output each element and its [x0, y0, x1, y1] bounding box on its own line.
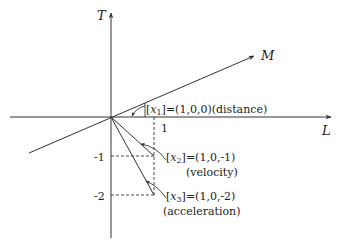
tick-y-minus-1: -1 — [94, 151, 105, 164]
vector-x2 — [111, 117, 154, 156]
tick-x-1: 1 — [161, 122, 168, 135]
pointer-x2 — [141, 144, 166, 160]
svg-text:[x3]=(1,0,-2): [x3]=(1,0,-2) — [166, 190, 235, 204]
tick-y-minus-2: -2 — [94, 190, 105, 203]
vector-x3-label: [x3]=(1,0,-2) (acceleration) — [163, 190, 240, 218]
svg-text:(velocity): (velocity) — [186, 166, 238, 179]
svg-text:[x2]=(1,0,-1): [x2]=(1,0,-1) — [166, 151, 235, 165]
vector-x2-label: [x2]=(1,0,-1) (velocity) — [166, 151, 238, 179]
l-axis-label: L — [321, 123, 331, 138]
m-axis-label: M — [260, 48, 275, 63]
svg-text:(acceleration): (acceleration) — [163, 205, 240, 218]
svg-text:[x1]=(1,0,0)(distance): [x1]=(1,0,0)(distance) — [146, 103, 267, 117]
dimension-vector-diagram: T L M 1 -1 -2 [x1]=(1,0,0)(distance) [x2… — [0, 0, 343, 248]
t-axis-label: T — [97, 8, 107, 23]
vector-x1-label: [x1]=(1,0,0)(distance) — [146, 103, 267, 117]
